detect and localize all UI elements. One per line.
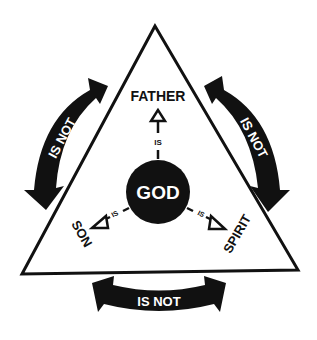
person-label-father: FATHER bbox=[131, 88, 186, 104]
is-label-top: IS bbox=[154, 138, 162, 147]
is-not-label-bottom: IS NOT bbox=[137, 294, 180, 309]
center-label-god: GOD bbox=[136, 182, 179, 203]
trinity-diagram: IS NOT IS NOT IS NOT FATHER SON SPIRIT I… bbox=[0, 0, 317, 340]
is-not-arrow-bottom: IS NOT bbox=[92, 276, 226, 312]
